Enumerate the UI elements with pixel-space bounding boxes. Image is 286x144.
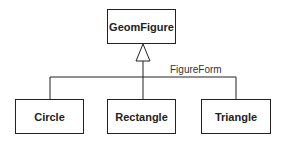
generalization-arrow-icon [136, 44, 150, 61]
class-triangle: Triangle [201, 99, 271, 134]
class-circle: Circle [15, 99, 84, 134]
class-geomfigure: GeomFigure [107, 9, 176, 44]
class-name: Circle [34, 111, 65, 123]
class-name: Rectangle [115, 111, 168, 123]
discriminator-label: FigureForm [170, 64, 222, 75]
class-name: GeomFigure [109, 21, 174, 33]
class-name: Triangle [215, 111, 257, 123]
class-rectangle: Rectangle [107, 99, 176, 134]
